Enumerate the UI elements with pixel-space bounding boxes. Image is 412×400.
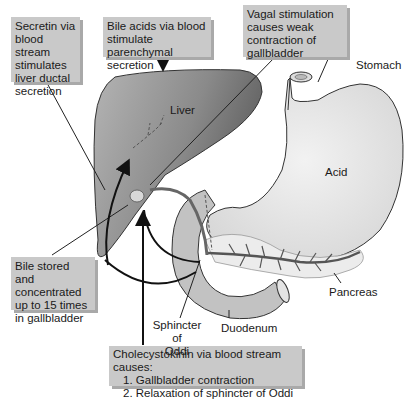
acid-label: Acid	[325, 166, 347, 179]
sphincter-line-1: Sphincter of	[147, 319, 207, 345]
cck-item-1: 1. Gallbladder contraction	[123, 374, 298, 387]
stomach-label: Stomach	[356, 59, 401, 72]
bile-stored-callout: Bile stored and concentrated up to 15 ti…	[11, 257, 95, 310]
bile-acids-callout: Bile acids via blood stimulate parenchym…	[103, 17, 211, 57]
secretin-callout: Secretin via blood stream stimulates liv…	[11, 17, 80, 82]
vagal-callout: Vagal stimulation causes weak contractio…	[243, 5, 347, 57]
duodenum-label: Duodenum	[221, 322, 277, 335]
cck-item-2: 2. Relaxation of sphincter of Oddi	[123, 387, 298, 400]
pancreas-label: Pancreas	[329, 286, 378, 299]
liver-label: Liver	[170, 104, 195, 117]
sphincter-line-2: Oddi	[147, 345, 207, 358]
sphincter-of-oddi-label: Sphincter of Oddi	[147, 319, 207, 358]
